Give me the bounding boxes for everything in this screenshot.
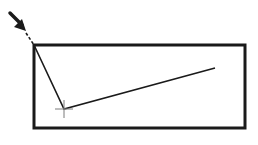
diagram-canvas — [0, 0, 258, 145]
bounding-rectangle — [34, 45, 245, 128]
arrow-icon — [10, 13, 26, 31]
pointer-line — [26, 33, 34, 45]
crosshair-icon — [55, 100, 73, 118]
polyline-path — [34, 45, 215, 109]
